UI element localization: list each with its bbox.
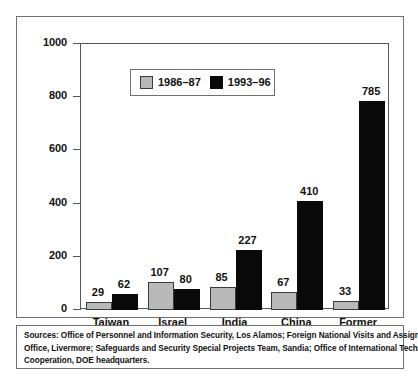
chart-legend: 1986–87 1993–96 <box>130 69 275 96</box>
y-axis-label: 400 <box>25 197 67 208</box>
bar-series-b <box>297 201 323 310</box>
bar-value-label: 227 <box>227 235 269 246</box>
bar-series-a <box>86 302 112 310</box>
bar-series-a <box>148 282 174 310</box>
bar-value-label: 67 <box>262 277 304 288</box>
bar-value-label: 85 <box>201 272 243 283</box>
legend-item-0: 1986–87 <box>140 76 201 89</box>
y-axis-label: 600 <box>25 143 67 154</box>
bar-series-a <box>210 287 236 310</box>
chart-frame: 02004006008001000 2962107808522767410337… <box>16 16 404 318</box>
bar-series-a <box>333 301 359 310</box>
bar-value-label: 785 <box>350 86 392 97</box>
y-axis-label: 0 <box>25 303 67 314</box>
bar-value-label: 33 <box>324 286 366 297</box>
source-note-box: Sources: Office of Personnel and Informa… <box>16 325 404 369</box>
source-line-0: Sources: Office of Personnel and Informa… <box>24 330 396 343</box>
gray-swatch-icon <box>140 76 153 89</box>
y-axis-tick-major <box>73 309 81 310</box>
black-swatch-icon <box>210 76 223 89</box>
source-line-1: Office, Livermore; Safeguards and Securi… <box>24 343 396 356</box>
y-axis-label: 800 <box>25 90 67 101</box>
y-axis-label: 200 <box>25 250 67 261</box>
chart-page: 02004006008001000 2962107808522767410337… <box>0 0 418 377</box>
legend-item-1: 1993–96 <box>210 76 271 89</box>
bar-series-a <box>271 292 297 310</box>
y-axis-label: 1000 <box>25 37 67 48</box>
bar-series-b <box>359 101 385 310</box>
bar-series-b <box>174 289 200 310</box>
bar-value-label: 62 <box>103 279 145 290</box>
legend-label-1: 1993–96 <box>228 77 271 88</box>
legend-label-0: 1986–87 <box>158 77 201 88</box>
bar-value-label: 410 <box>288 186 330 197</box>
source-line-2: Cooperation, DOE headquarters. <box>24 355 396 368</box>
